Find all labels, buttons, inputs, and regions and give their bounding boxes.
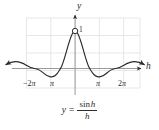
x-tick-label-2pi: 2π [118,80,126,88]
hole-value-label: 1 [79,26,83,34]
x-tick-label-minus-2pi: −2π [23,80,36,88]
grid-lines [27,18,141,88]
x-tick-symbol-right-pi: π [96,79,100,88]
caption-equation: y=sin hh [0,99,159,121]
x-tick-symbol-minus-2pi: π [32,79,36,88]
equation-equals-sign: = [69,105,77,115]
x-tick-label-right-pi: π [96,80,100,88]
x-axis-label: h [146,62,151,72]
y-axis-label: y [77,2,81,12]
hole-marker-open-circle [72,28,77,33]
equation-numerator: sin h [77,99,97,111]
equation-sin-function: sin [79,99,90,109]
equation-fraction: sin hh [77,99,97,121]
equation-numerator-variable: h [91,99,96,109]
equation-lhs: y [62,105,69,115]
x-tick-symbol-left-pi: π [50,79,54,88]
equation-denominator: h [77,111,97,122]
x-tick-symbol-2pi: π [122,79,126,88]
figure-sinc-graph: y h 1 −2π π π 2π y=sin hh [0,0,159,130]
x-tick-label-left-pi: π [50,80,54,88]
x-tick-prefix-minus-2pi: −2 [23,79,32,88]
